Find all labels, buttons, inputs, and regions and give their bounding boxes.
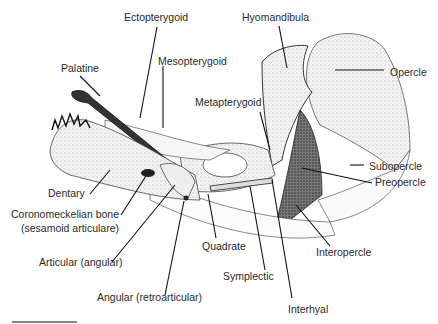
- label-hyomandibula: Hyomandibula: [242, 11, 309, 23]
- label-subopercle: Subopercle: [369, 160, 422, 172]
- label-dentary: Dentary: [48, 187, 85, 199]
- label-preopercle: Preopercle: [375, 176, 426, 188]
- label-palatine: Palatine: [61, 62, 99, 74]
- label-interhyal: Interhyal: [288, 303, 328, 315]
- label-mesopterygoid: Mesopterygoid: [158, 55, 227, 67]
- label-interopercle: Interopercle: [316, 246, 371, 258]
- label-opercle: Opercle: [390, 66, 427, 78]
- label-articular: Articular (angular): [39, 256, 122, 268]
- angular-bone: [184, 196, 189, 201]
- label-metapterygoid: Metapterygoid: [195, 96, 262, 108]
- label-ectopterygoid: Ectopterygoid: [124, 11, 188, 23]
- label-sesamoid-articulare: (sesamoid articulare): [0, 222, 119, 234]
- label-coronomeckelian: Coronomeckelian bone: [0, 208, 119, 220]
- opercle-bone: [306, 34, 410, 170]
- coronomeckelian-bone: [141, 169, 155, 177]
- label-quadrate: Quadrate: [202, 240, 246, 252]
- label-angular: Angular (retroarticular): [97, 291, 202, 303]
- label-symplectic: Symplectic: [223, 270, 274, 282]
